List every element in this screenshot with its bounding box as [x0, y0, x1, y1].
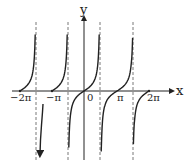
- y-axis-label: y: [79, 2, 88, 17]
- x-tick-label: −2π: [10, 92, 32, 103]
- tangent-graph: xy−2π−π0π2π: [0, 0, 187, 163]
- x-tick-label: π: [117, 92, 124, 103]
- curve-branch: [20, 35, 35, 92]
- x-axis-label: x: [176, 83, 184, 98]
- x-tick-label: 2π: [147, 92, 160, 103]
- x-tick-label: 0: [87, 92, 93, 103]
- curve-branch: [52, 35, 67, 92]
- curve-branch: [40, 104, 43, 154]
- x-tick-label: −π: [46, 92, 61, 103]
